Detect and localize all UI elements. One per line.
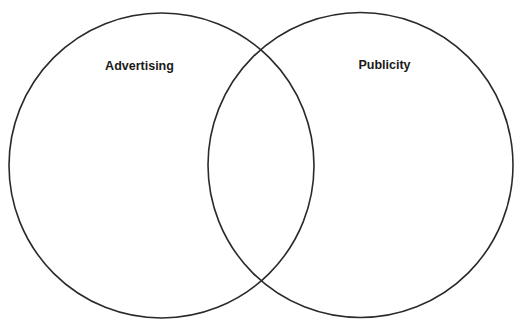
advertising-label: Advertising	[105, 59, 174, 73]
publicity-label: Publicity	[358, 58, 410, 72]
venn-diagram: Advertising Publicity	[0, 0, 515, 325]
venn-diagram-canvas: Advertising Publicity	[0, 0, 515, 325]
